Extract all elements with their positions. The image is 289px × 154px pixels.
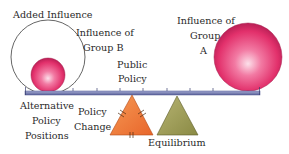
policy-change-fulcrum: [110, 95, 153, 138]
equilibrium-label: Equilibrium: [148, 137, 206, 148]
equilibrium-fulcrum: [157, 96, 198, 135]
alternative-label-line3: Positions: [25, 130, 69, 141]
group-b-sphere: [31, 58, 65, 92]
alternative-label-line2: Policy: [32, 115, 61, 126]
public-policy-label-line2: Policy: [118, 73, 147, 84]
added-influence-label: Added Influence: [12, 9, 93, 20]
public-policy-label-line1: Public: [117, 59, 147, 70]
alternative-label-line1: Alternative: [19, 100, 74, 111]
group-b-label-line1: Influence of: [76, 27, 135, 38]
balance-beam: [25, 87, 260, 95]
group-a-label-line1: Influence of: [177, 15, 236, 26]
group-a-label-line2: Group: [190, 30, 220, 41]
group-a-label-line3: A: [199, 45, 208, 56]
policy-change-label-line1: Policy: [78, 106, 107, 117]
group-a-sphere: [214, 23, 282, 91]
group-b-label-line2: Group B: [83, 42, 123, 53]
policy-change-label-line2: Change: [74, 121, 112, 132]
policy-balance-diagram: Added Influence Influence of Group B Pub…: [0, 0, 289, 154]
